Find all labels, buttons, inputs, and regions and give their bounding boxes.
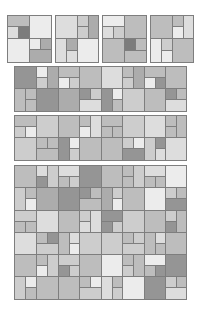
mosaic-cell (165, 66, 187, 89)
mosaic-cell (122, 88, 145, 112)
tile-2 (55, 15, 98, 62)
mosaic-cell (79, 165, 102, 188)
mosaic-cell (165, 232, 187, 255)
mosaic-cell (165, 137, 187, 161)
mosaic-cell (112, 99, 123, 112)
mosaic-cell (36, 187, 59, 211)
mosaic-cell (122, 210, 145, 233)
mosaic-cell (144, 187, 166, 211)
mosaic-cell (36, 210, 59, 233)
mosaic-cell (79, 287, 102, 300)
mosaic-cell (25, 99, 37, 112)
mosaic-cell (165, 254, 187, 277)
mosaic-cell (101, 165, 123, 188)
mosaic-cell (124, 50, 147, 63)
mosaic-cell (161, 50, 173, 63)
mosaic-grid (14, 165, 186, 299)
mosaic-cell (29, 49, 52, 63)
mosaic-cell (165, 287, 187, 300)
mosaic-cell (79, 66, 102, 89)
mosaic-cell (79, 232, 102, 255)
mosaic-cell (101, 66, 123, 89)
mosaic-cell (122, 276, 145, 300)
mosaic-cell (144, 276, 166, 300)
mosaic-cell (101, 137, 123, 161)
mosaic-cell (176, 115, 187, 138)
mosaic-cell (101, 232, 123, 255)
mosaic-cell (88, 15, 99, 39)
mosaic-cell (66, 50, 78, 63)
mosaic-cell (36, 148, 59, 161)
mosaic-cell (172, 38, 194, 63)
mosaic-cell (144, 115, 166, 138)
mosaic-cell (144, 88, 166, 112)
mosaic-cell (112, 287, 123, 300)
mosaic-cell (101, 254, 123, 277)
mosaic-cell (14, 254, 37, 277)
mosaic-cell (165, 99, 187, 112)
mosaic-cell (122, 115, 145, 138)
mosaic-cell (122, 148, 145, 161)
tile-4 (150, 15, 193, 62)
mosaic-cell (183, 15, 194, 39)
mosaic-cell (36, 276, 59, 300)
mosaic-cell (7, 38, 30, 63)
mosaic-cell (69, 148, 80, 161)
mosaic-cell (102, 38, 125, 63)
tile-3 (102, 15, 146, 62)
mosaic-cell (58, 88, 80, 112)
mosaic-cell (176, 210, 187, 233)
mosaic-cell (14, 137, 37, 161)
mosaic-row-2 (14, 115, 186, 160)
tile-1 (7, 15, 51, 62)
mosaic-cell (155, 148, 166, 161)
mosaic-cell (79, 137, 102, 161)
mosaic-cell (58, 115, 80, 138)
mosaic-cell (122, 187, 145, 211)
mosaic-row-1 (14, 66, 186, 111)
mosaic-cell (150, 15, 173, 39)
mosaic-cell (144, 210, 166, 233)
mosaic-cell (58, 210, 80, 233)
mosaic-cell (55, 15, 78, 39)
mosaic-cell (29, 15, 52, 39)
mosaic-cell (36, 88, 59, 112)
mosaic-cell (124, 15, 147, 39)
mosaic-cell (14, 232, 37, 255)
mosaic-cell (25, 287, 37, 300)
mosaic-cell (79, 254, 102, 277)
mosaic-cell (77, 38, 99, 63)
mosaic-cell (165, 165, 187, 188)
mosaic-cell (14, 66, 37, 89)
mosaic-cell (14, 165, 37, 188)
mosaic-cell (58, 187, 80, 211)
mosaic-cell (58, 276, 80, 300)
mosaic-cell (36, 115, 59, 138)
mosaic-cell (79, 99, 102, 112)
